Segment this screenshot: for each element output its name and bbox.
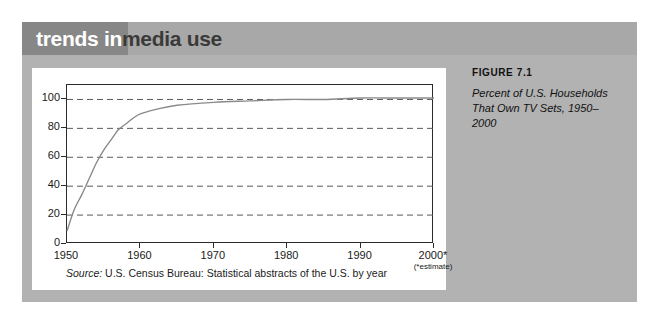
figure-caption-line-1: Percent of U.S. Households [472,86,622,101]
y-axis-tick-mark [61,243,66,244]
y-axis-tick-mark [61,214,66,215]
y-axis-tick-mark [61,127,66,128]
x-axis-tick-label: 1980 [263,249,309,261]
x-axis-tick-label: 1950 [43,249,89,261]
figure-number: FIGURE 7.1 [472,66,622,79]
x-axis-tick-label: 1970 [190,249,236,261]
y-axis-tick-label: 20 [30,208,60,219]
y-axis-tick-label: 80 [30,121,60,132]
y-axis-tick-mark [61,156,66,157]
x-axis-tick-mark [286,243,287,248]
x-axis-tick-label: 1990 [337,249,383,261]
banner-title: trends inmedia use [36,26,222,52]
x-axis-tick-label: 1960 [116,249,162,261]
gridline-group [67,99,434,215]
figure-caption-line-2: That Own TV Sets, 1950–2000 [472,101,622,131]
y-axis-tick-label: 0 [30,237,60,248]
source-label: Source: [66,267,102,279]
y-axis-tick-mark [61,185,66,186]
y-axis-tick-label: 60 [30,150,60,161]
source-text: U.S. Census Bureau: Statistical abstract… [102,267,387,279]
section-banner: trends inmedia use [22,22,637,55]
source-note: Source: U.S. Census Bureau: Statistical … [66,267,387,279]
banner-title-dark: media use [122,27,222,50]
tv-ownership-curve [67,98,434,231]
x-axis-tick-mark [433,243,434,248]
estimate-footnote: (*estimate) [403,262,463,272]
chart-svg [67,85,434,244]
figure-page: trends inmedia use 020406080100 19501960… [0,0,654,323]
banner-title-light: trends in [36,27,122,50]
chart-card: 020406080100 195019601970198019902000* (… [32,68,446,290]
y-axis-tick-label: 40 [30,179,60,190]
x-axis-tick-mark [139,243,140,248]
x-axis-tick-mark [360,243,361,248]
figure-caption: FIGURE 7.1 Percent of U.S. Households Th… [472,66,622,131]
y-axis-tick-mark [61,98,66,99]
y-axis-tick-label: 100 [30,92,60,103]
plot-area [66,84,433,243]
x-axis-tick-mark [213,243,214,248]
x-axis-tick-label: 2000* [410,249,456,261]
